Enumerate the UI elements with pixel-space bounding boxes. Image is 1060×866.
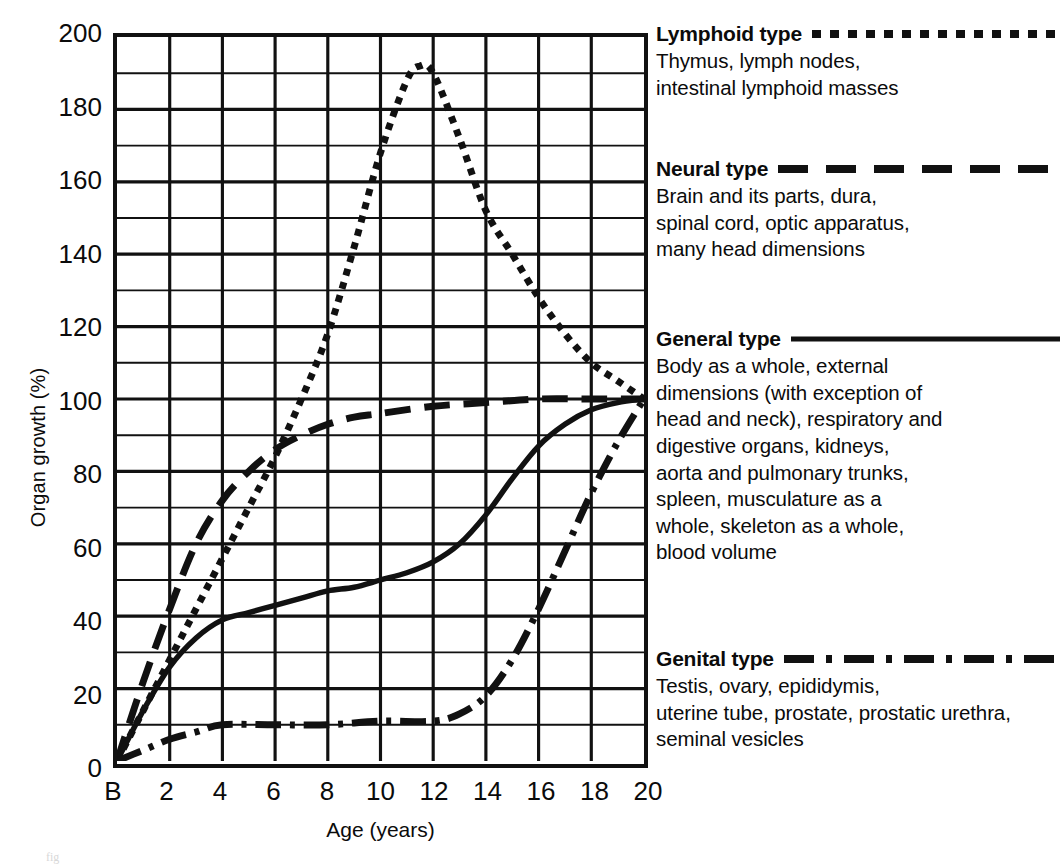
legend-description-line: whole, skeleton as a whole, xyxy=(656,513,1060,540)
plot-grid-and-curves xyxy=(117,37,644,761)
x-axis-title: Age (years) xyxy=(113,818,648,842)
y-tick-label: 40 xyxy=(40,608,102,634)
chart-page: Organ growth (%) 02040608010012014016018… xyxy=(0,0,1060,866)
legend-block-lymphoid-type: Lymphoid typeThymus, lymph nodes,intesti… xyxy=(656,22,1060,101)
legend-title: Genital type xyxy=(656,647,774,671)
legend-line-sample xyxy=(784,652,1060,666)
legend-description-line: intestinal lymphoid masses xyxy=(656,75,1060,102)
x-tick-label: 2 xyxy=(159,778,173,804)
legend-description: Body as a whole, externaldimensions (wit… xyxy=(656,353,1060,566)
legend-description-line: spinal cord, optic apparatus, xyxy=(656,210,1060,237)
y-tick-label: 160 xyxy=(40,167,102,193)
x-tick-label: 8 xyxy=(320,778,334,804)
legend-description-line: head and neck), respiratory and xyxy=(656,406,1060,433)
plot-area xyxy=(113,33,648,768)
legend-title: Neural type xyxy=(656,157,768,181)
legend-description-line: many head dimensions xyxy=(656,236,1060,263)
x-tick-label: 4 xyxy=(213,778,227,804)
x-tick-label: B xyxy=(104,778,121,804)
legend-description-line: seminal vesicles xyxy=(656,726,1060,753)
legend-description-line: spleen, musculature as a xyxy=(656,486,1060,513)
y-tick-label: 180 xyxy=(40,94,102,120)
x-tick-label: 10 xyxy=(366,778,395,804)
legend-description-line: blood volume xyxy=(656,539,1060,566)
legend-description: Thymus, lymph nodes,intestinal lymphoid … xyxy=(656,48,1060,101)
legend-block-general-type: General typeBody as a whole, externaldim… xyxy=(656,327,1060,566)
x-tick-label: 6 xyxy=(266,778,280,804)
legend-header: Neural type xyxy=(656,157,1060,181)
y-tick-label: 200 xyxy=(40,20,102,46)
x-tick-label: 12 xyxy=(420,778,449,804)
x-tick-label: 18 xyxy=(580,778,609,804)
x-tick-label: 14 xyxy=(473,778,502,804)
legend-description-line: Thymus, lymph nodes, xyxy=(656,48,1060,75)
legend-description-line: Body as a whole, external xyxy=(656,353,1060,380)
legend-line-sample xyxy=(778,162,1060,176)
y-axis-tick-labels: 020406080100120140160180200 xyxy=(36,0,102,866)
legend-title: General type xyxy=(656,327,781,351)
legend-description-line: Testis, ovary, epididymis, xyxy=(656,673,1060,700)
legend-description: Brain and its parts, dura,spinal cord, o… xyxy=(656,183,1060,263)
y-tick-label: 80 xyxy=(40,461,102,487)
legend-description-line: digestive organs, kidneys, xyxy=(656,433,1060,460)
legend: Lymphoid typeThymus, lymph nodes,intesti… xyxy=(656,22,1060,812)
legend-description-line: Brain and its parts, dura, xyxy=(656,183,1060,210)
legend-line-sample xyxy=(812,27,1060,41)
legend-description-line: dimensions (with exception of xyxy=(656,380,1060,407)
legend-header: General type xyxy=(656,327,1060,351)
legend-description-line: aorta and pulmonary trunks, xyxy=(656,460,1060,487)
x-tick-label: 16 xyxy=(527,778,556,804)
legend-block-genital-type: Genital typeTestis, ovary, epididymis,ut… xyxy=(656,647,1060,753)
y-tick-label: 60 xyxy=(40,535,102,561)
y-tick-label: 120 xyxy=(40,314,102,340)
legend-header: Genital type xyxy=(656,647,1060,671)
legend-description: Testis, ovary, epididymis,uterine tube, … xyxy=(656,673,1060,753)
legend-line-sample xyxy=(791,332,1060,346)
legend-description-line: uterine tube, prostate, prostatic urethr… xyxy=(656,700,1060,727)
y-tick-label: 140 xyxy=(40,241,102,267)
y-tick-label: 100 xyxy=(40,388,102,414)
legend-block-neural-type: Neural typeBrain and its parts, dura,spi… xyxy=(656,157,1060,263)
figure-caption-remnant: fig xyxy=(46,850,59,865)
legend-header: Lymphoid type xyxy=(656,22,1060,46)
legend-title: Lymphoid type xyxy=(656,22,802,46)
y-tick-label: 20 xyxy=(40,682,102,708)
